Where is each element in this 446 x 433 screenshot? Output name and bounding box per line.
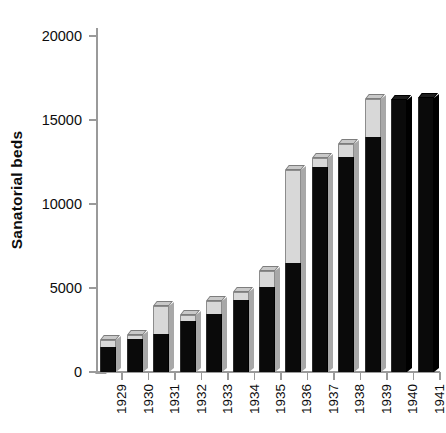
y-tick: 5000 (89, 287, 96, 289)
x-tick (174, 372, 176, 380)
bar-side-face (249, 288, 254, 372)
x-tick-label: 1938 (352, 384, 367, 414)
x-tick-label: 1939 (379, 384, 394, 414)
y-tick: 0 (89, 371, 96, 373)
x-tick-label: 1929 (114, 384, 129, 414)
bar-1934 (233, 292, 249, 372)
bar-side-face (275, 267, 280, 372)
plot-area: 05000100001500020000 1929193019311932193… (96, 28, 440, 372)
bar-1936 (285, 170, 301, 372)
y-tick-label: 15000 (42, 112, 82, 128)
bar-side-face (143, 331, 148, 372)
bar-segment-lower (365, 137, 381, 372)
x-tick-label: 1937 (326, 384, 341, 414)
bar-segment-upper (285, 170, 301, 263)
x-tick-label: 1930 (141, 384, 156, 414)
x-tick (360, 372, 362, 380)
y-tick-label: 5000 (50, 280, 82, 296)
x-tick-label: 1932 (194, 384, 209, 414)
x-tick (439, 372, 441, 380)
bar-1938 (338, 144, 354, 372)
bar-1932 (180, 315, 196, 372)
x-tick (413, 372, 415, 380)
bar-segment-upper (312, 158, 328, 167)
y-tick-label: 20000 (42, 28, 82, 44)
bar-side-face (354, 140, 359, 372)
bar-segment-lower (100, 347, 116, 372)
bar-1930 (127, 335, 143, 372)
bar-segment-upper (365, 99, 381, 137)
y-tick: 10000 (89, 203, 96, 205)
x-tick (280, 372, 282, 380)
bar-segment-lower (127, 339, 143, 372)
bar-1939 (365, 99, 381, 372)
bar-side-face (169, 302, 174, 372)
bar-side-face (116, 336, 121, 372)
bar-segment-lower (206, 314, 222, 372)
chart-figure: Sanatorial beds 05000100001500020000 192… (0, 0, 446, 433)
bar-side-face (301, 166, 306, 372)
bar-segment-lower (285, 263, 301, 372)
bar-1937 (312, 158, 328, 372)
bar-segment-lower (312, 167, 328, 372)
bar-1933 (206, 301, 222, 372)
bar-1929 (100, 340, 116, 372)
x-tick (121, 372, 123, 380)
x-tick (307, 372, 309, 380)
x-tick (148, 372, 150, 380)
x-tick-label: 1940 (405, 384, 420, 414)
x-tick (254, 372, 256, 380)
bar-segment-lower (259, 287, 275, 372)
y-tick-label: 10000 (42, 196, 82, 212)
bar-segment-upper (338, 144, 354, 157)
x-tick-label: 1936 (299, 384, 314, 414)
bar-top-face (233, 287, 253, 292)
bar-segment-upper (233, 292, 249, 300)
bar-side-face (328, 154, 333, 372)
x-tick (386, 372, 388, 380)
bar-side-face (434, 94, 439, 372)
y-tick: 20000 (89, 35, 96, 37)
y-axis-line (96, 28, 98, 372)
bar-segment-upper (259, 271, 275, 287)
bar-segment-lower (391, 100, 407, 372)
bar-segment-upper (100, 340, 116, 347)
y-axis-title: Sanatorial beds (0, 0, 34, 380)
bar-segment-lower (338, 157, 354, 372)
bar-segment-upper (127, 335, 143, 339)
x-tick (333, 372, 335, 380)
bar-segment-lower (233, 300, 249, 372)
bar-side-face (407, 96, 412, 372)
x-tick (227, 372, 229, 380)
bar-side-face (381, 95, 386, 372)
y-tick: 15000 (89, 119, 96, 121)
x-tick-label: 1931 (167, 384, 182, 414)
bar-1935 (259, 271, 275, 372)
bar-side-face (196, 311, 201, 372)
bar-1931 (153, 306, 169, 372)
bar-side-face (222, 297, 227, 372)
bar-segment-upper (180, 315, 196, 321)
bar-segment-lower (180, 321, 196, 372)
bar-1941 (418, 98, 434, 372)
bar-1940 (391, 100, 407, 372)
y-tick-label: 0 (74, 364, 82, 380)
bar-segment-upper (153, 306, 169, 334)
x-tick-label: 1934 (247, 384, 262, 414)
x-tick-label: 1935 (273, 384, 288, 414)
bar-segment-lower (153, 334, 169, 372)
x-tick-label: 1941 (432, 384, 446, 414)
bar-segment-upper (206, 301, 222, 314)
bar-segment-lower (418, 98, 434, 372)
x-tick (201, 372, 203, 380)
x-tick-label: 1933 (220, 384, 235, 414)
y-axis-title-text: Sanatorial beds (8, 131, 26, 249)
